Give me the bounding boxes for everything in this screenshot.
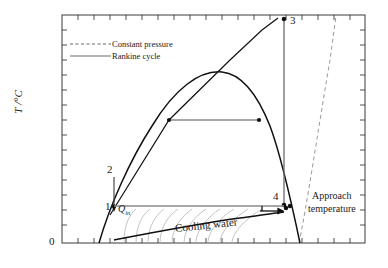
- annotation-approach-temperature-line2: temperature: [308, 203, 356, 214]
- figure-root: T /°C 0 Constant pressure Rankine cycle …: [0, 0, 388, 268]
- heat-input-subscript: in: [125, 209, 130, 216]
- legend-label-constant-pressure: Constant pressure: [112, 39, 173, 49]
- state-point-label-1: 1: [105, 200, 111, 212]
- annotation-approach-temperature-line1: Approach: [312, 190, 351, 201]
- state-point-label-2: 2: [107, 163, 113, 175]
- y-axis-origin-tick-label: 0: [49, 235, 55, 247]
- y-axis-label: T /°C: [12, 62, 24, 142]
- axis-ticks-top: [78, 15, 350, 20]
- axis-ticks-right: [360, 30, 365, 225]
- two-phase-isotherm-line: [167, 118, 261, 122]
- annotation-heat-input: Qin: [118, 203, 130, 216]
- state-point-label-3: 3: [290, 14, 296, 26]
- axis-ticks-left: [62, 30, 67, 225]
- legend-label-rankine-cycle: Rankine cycle: [112, 51, 160, 61]
- state-point-label-4: 4: [273, 190, 279, 202]
